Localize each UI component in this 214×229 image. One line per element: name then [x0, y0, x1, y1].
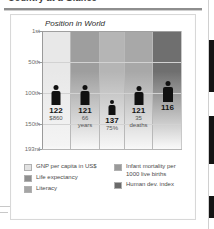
bar-sub-label-1: $860: [40, 115, 72, 122]
figure-body-icon: [134, 92, 143, 105]
bar-value-label-5: 116: [152, 103, 184, 112]
bar-sub-label-4: 35: [123, 115, 155, 122]
figure-head-icon: [54, 85, 59, 90]
figure-body-icon: [163, 87, 173, 102]
y-tick-mark: [38, 62, 42, 63]
heading-rule-shadow: [4, 10, 202, 11]
bar-value-label-4: 121: [123, 106, 155, 115]
legend-label: GNP per capita in US$: [36, 163, 97, 170]
chart-legend: GNP per capita in US$Life expectancyLite…: [24, 164, 184, 204]
page-edge-fragment: [209, 196, 214, 218]
legend-swatch: [24, 186, 32, 193]
y-tick-mark: [38, 31, 42, 32]
pictogram-figure-4: [134, 86, 143, 105]
bar-value-label-2: 121: [69, 106, 101, 115]
chart-title: Position in World: [45, 19, 105, 28]
legend-label: Life expectancy: [36, 174, 78, 181]
legend-swatch: [24, 164, 32, 171]
figure-body-icon: [52, 91, 61, 105]
legend-swatch: [24, 175, 32, 182]
y-tick-mark: [38, 124, 42, 125]
plot-frame: [42, 31, 182, 150]
pictogram-figure-3: [109, 100, 116, 115]
figure-head-icon: [110, 100, 114, 104]
page-edge-fragment: [209, 40, 214, 92]
chart-panel-inner: Position in World 122$86012166years13775…: [12, 16, 194, 218]
y-tick-label-100th: 100th: [12, 90, 40, 96]
legend-label: Literacy: [36, 185, 57, 192]
page-heading: Country at a Glance: [8, 0, 97, 3]
y-tick-label-193rd: 193rd: [12, 146, 40, 152]
chart-panel: Position in World 122$86012166years13775…: [10, 14, 196, 220]
page-edge-tick: [0, 212, 8, 213]
figure-body-icon: [109, 105, 116, 115]
y-tick-mark: [38, 93, 42, 94]
plot-area: 122$86012166years13775%12135deaths116: [42, 31, 182, 150]
figure-head-icon: [83, 85, 88, 90]
y-tick-label-50th: 50th: [12, 59, 40, 65]
figure-head-icon: [165, 81, 170, 86]
y-tick-mark: [38, 149, 42, 150]
bar-value-label-1: 122: [40, 106, 72, 115]
page-edge-rule: [208, 0, 209, 229]
bar-sub-label-2-4: deaths: [123, 122, 155, 129]
legend-label-line2: 1000 live births: [126, 171, 166, 178]
figure-body-icon: [81, 91, 90, 105]
y-tick-label-150th: 150th: [12, 121, 40, 127]
pictogram-figure-5: [163, 81, 173, 102]
plot-baseline: [42, 149, 182, 150]
pictogram-figure-2: [81, 85, 90, 105]
legend-label: Human dev. index: [126, 181, 174, 188]
legend-swatch: [114, 164, 122, 171]
pictogram-figure-1: [52, 85, 61, 105]
figure-head-icon: [136, 86, 141, 91]
y-tick-label-1st: 1st: [12, 28, 40, 34]
page-edge-fragment: [209, 116, 214, 164]
legend-label: Infant mortality per: [126, 163, 176, 170]
legend-swatch: [114, 182, 122, 189]
